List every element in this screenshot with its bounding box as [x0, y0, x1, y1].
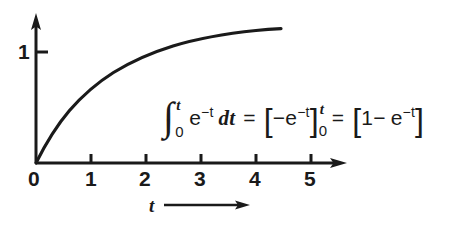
equals-first: = [243, 106, 255, 129]
bracket-close-second: ] [415, 102, 424, 138]
differential: dt [219, 106, 236, 130]
integral-upper-limit: t [176, 98, 180, 113]
integrand-exponent: −t [201, 104, 213, 120]
antiderivative-base: e [285, 106, 297, 129]
result-minus: − [373, 106, 385, 129]
antiderivative-exponent: −t [297, 104, 309, 120]
x-tick-label-1: 1 [85, 168, 97, 189]
bracket-open-first: [ [264, 102, 273, 138]
evaluation-limits: t0 [319, 104, 330, 134]
bracket-close-first: ] [310, 102, 319, 138]
figure-container: 1 0 1 2 3 4 5 t ∫t0e−tdt=[−e−t]t0=[1−e−t… [0, 0, 460, 227]
bracket-open-second: [ [352, 102, 361, 138]
equals-second: = [332, 106, 344, 129]
antiderivative-sign: − [273, 106, 285, 129]
x-tick-label-5: 5 [304, 168, 316, 189]
result-exponent: −t [403, 104, 415, 120]
evaluation-upper-limit: t [320, 102, 324, 117]
integral-lower-limit: 0 [175, 124, 184, 139]
integral-sign: ∫ [163, 94, 174, 139]
integral-limits: t0 [175, 102, 187, 136]
y-tick-label-1: 1 [18, 41, 30, 62]
evaluation-lower-limit: 0 [319, 123, 328, 138]
x-tick-label-0: 0 [28, 168, 40, 189]
integrand-base: e [189, 106, 201, 129]
x-tick-label-2: 2 [139, 168, 151, 189]
result-one: 1 [361, 106, 373, 129]
result-base: e [391, 106, 403, 129]
x-tick-label-4: 4 [249, 168, 261, 189]
x-tick-label-3: 3 [194, 168, 206, 189]
x-axis-label-t: t [149, 196, 154, 215]
integral-formula-annotation: ∫t0e−tdt=[−e−t]t0=[1−e−t] [163, 92, 424, 136]
